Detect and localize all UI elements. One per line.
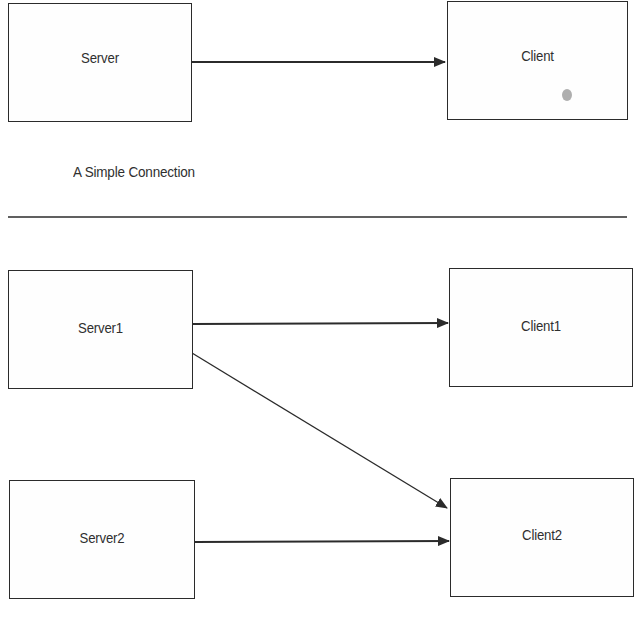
- simple-connection-caption: A Simple Connection: [73, 163, 195, 180]
- server1-box: Server1: [8, 270, 193, 389]
- server2-box: Server2: [9, 480, 195, 599]
- arrow-server2-to-client2: [195, 541, 449, 542]
- client2-box: Client2: [450, 478, 634, 597]
- server1-label: Server1: [20, 319, 181, 336]
- server-label: Server: [20, 49, 180, 66]
- client1-box: Client1: [449, 268, 633, 387]
- server-box: Server: [8, 3, 192, 122]
- server2-label: Server2: [21, 529, 183, 546]
- arrow-server1-to-client2: [192, 353, 447, 508]
- client2-label: Client2: [462, 526, 622, 543]
- arrow-server1-to-client1: [192, 323, 448, 324]
- client-label: Client: [459, 47, 617, 64]
- client-box: Client: [447, 1, 628, 120]
- client1-label: Client1: [461, 317, 621, 334]
- ink-smudge: [562, 89, 572, 101]
